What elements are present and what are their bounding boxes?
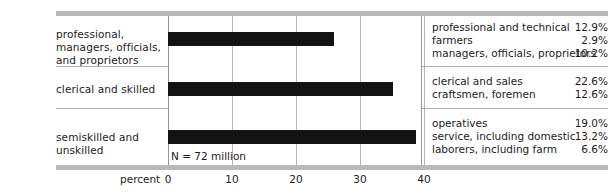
category-label-clerical: clerical and skilled — [56, 83, 164, 96]
row-separator-right-1 — [422, 66, 608, 67]
detail-row: operatives 19.0% — [432, 117, 608, 130]
detail-row: clerical and sales 22.6% — [432, 75, 608, 88]
detail-name: service, including domestic — [432, 130, 576, 143]
detail-value: 12.6% — [575, 88, 608, 101]
detail-name: managers, officials, proprietors — [432, 47, 596, 60]
x-tick-10: 10 — [225, 173, 238, 185]
detail-name: laborers, including farm — [432, 143, 557, 156]
top-rule — [56, 11, 608, 16]
detail-name: professional and technical — [432, 21, 570, 34]
bar-clerical — [168, 82, 393, 96]
bar-professional — [168, 32, 334, 46]
detail-value: 2.9% — [581, 34, 608, 47]
detail-row: service, including domestic 13.2% — [432, 130, 608, 143]
bottom-rule — [56, 165, 608, 170]
detail-row: farmers 2.9% — [432, 34, 608, 47]
detail-row: managers, officials, proprietors 10.2% — [432, 47, 608, 60]
detail-name: farmers — [432, 34, 473, 47]
detail-name: craftsmen, foremen — [432, 88, 536, 101]
occupation-distribution-chart: professional, managers, officials, and p… — [0, 0, 616, 194]
detail-value: 22.6% — [575, 75, 608, 88]
detail-value: 12.9% — [575, 21, 608, 34]
detail-value: 10.2% — [575, 47, 608, 60]
x-tick-40: 40 — [417, 173, 430, 185]
x-tick-0: 0 — [165, 173, 172, 185]
detail-name: operatives — [432, 117, 487, 130]
gridline-40 — [424, 16, 425, 165]
detail-value: 13.2% — [575, 130, 608, 143]
x-tick-30: 30 — [353, 173, 366, 185]
category-label-semiskilled: semiskilled and unskilled — [56, 131, 164, 157]
detail-row: laborers, including farm 6.6% — [432, 143, 608, 156]
panel-divider — [421, 16, 422, 165]
detail-row: craftsmen, foremen 12.6% — [432, 88, 608, 101]
detail-value: 19.0% — [575, 117, 608, 130]
detail-row: professional and technical 12.9% — [432, 21, 608, 34]
category-label-professional: professional, managers, officials, and p… — [56, 28, 164, 67]
x-tick-20: 20 — [289, 173, 302, 185]
row-separator-right-2 — [422, 108, 608, 109]
row-separator-left-2 — [56, 108, 168, 109]
sample-size-note: N = 72 million — [171, 150, 246, 162]
category-label-professional-line2: and proprietors — [56, 54, 138, 66]
bar-semiskilled — [168, 130, 416, 144]
detail-name: clerical and sales — [432, 75, 523, 88]
category-label-professional-line1: professional, managers, officials, — [56, 28, 161, 53]
detail-value: 6.6% — [581, 143, 608, 156]
x-axis-title: percent — [120, 173, 160, 185]
